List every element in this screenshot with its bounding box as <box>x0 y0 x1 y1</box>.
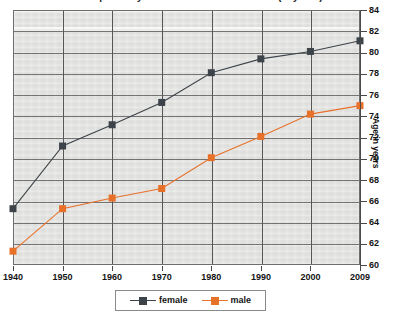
data-point-male-1980[interactable] <box>208 154 215 161</box>
legend-item-female[interactable]: female <box>130 296 188 305</box>
y-tick-64 <box>361 223 367 224</box>
data-point-male-1970[interactable] <box>158 185 165 192</box>
y-tick-78 <box>361 74 367 75</box>
series-line-male <box>13 106 360 252</box>
x-tick-label-1990: 1990 <box>241 272 281 282</box>
y-tick-label-82: 82 <box>369 27 379 36</box>
legend-item-male[interactable]: male <box>202 296 252 305</box>
data-point-female-2000[interactable] <box>307 48 314 55</box>
data-point-male-1960[interactable] <box>109 195 116 202</box>
data-point-female-1970[interactable] <box>158 99 165 106</box>
x-tick-label-2000: 2000 <box>290 272 330 282</box>
y-tick-label-64: 64 <box>369 218 379 227</box>
y-tick-label-84: 84 <box>369 6 379 15</box>
y-tick-label-60: 60 <box>369 261 379 270</box>
data-point-male-2000[interactable] <box>307 111 314 118</box>
y-tick-66 <box>361 201 367 202</box>
x-tick-1980 <box>211 266 212 271</box>
y-tick-68 <box>361 180 367 181</box>
data-point-male-1990[interactable] <box>257 133 264 140</box>
y-tick-74 <box>361 116 367 117</box>
chart-legend: female male <box>115 290 266 311</box>
y-tick-label-76: 76 <box>369 91 379 100</box>
series-group <box>10 37 364 254</box>
data-point-female-1960[interactable] <box>109 121 116 128</box>
y-tick-label-66: 66 <box>369 197 379 206</box>
x-tick-label-1970: 1970 <box>142 272 182 282</box>
y-tick-label-62: 62 <box>369 239 379 248</box>
data-point-female-1980[interactable] <box>208 69 215 76</box>
y-tick-76 <box>361 95 367 96</box>
x-tick-1940 <box>13 266 14 271</box>
y-tick-80 <box>361 53 367 54</box>
x-tick-label-1950: 1950 <box>43 272 83 282</box>
y-tick-62 <box>361 244 367 245</box>
x-tick-label-1960: 1960 <box>92 272 132 282</box>
y-tick-label-78: 78 <box>369 69 379 78</box>
legend-label-male: male <box>231 296 252 305</box>
y-tick-82 <box>361 31 367 32</box>
x-tick-1960 <box>112 266 113 271</box>
chart-screenshot: Life expectancy at birth in the United S… <box>0 0 401 317</box>
x-tick-label-1980: 1980 <box>191 272 231 282</box>
data-point-female-1940[interactable] <box>10 205 17 212</box>
x-tick-label-1940: 1940 <box>0 272 33 282</box>
y-tick-label-80: 80 <box>369 48 379 57</box>
data-point-female-1950[interactable] <box>59 143 66 150</box>
x-tick-1950 <box>63 266 64 271</box>
series-line-female <box>13 41 360 209</box>
data-point-male-1940[interactable] <box>10 248 17 255</box>
y-axis-title: Age in years <box>371 118 381 169</box>
x-tick-2009 <box>360 266 361 271</box>
y-tick-60 <box>361 265 367 266</box>
y-tick-72 <box>361 138 367 139</box>
x-tick-1970 <box>162 266 163 271</box>
legend-swatch-male <box>202 296 228 305</box>
legend-label-female: female <box>159 296 188 305</box>
y-tick-70 <box>361 159 367 160</box>
x-tick-2000 <box>310 266 311 271</box>
y-tick-label-68: 68 <box>369 176 379 185</box>
data-point-male-1950[interactable] <box>59 205 66 212</box>
x-tick-1990 <box>261 266 262 271</box>
data-point-female-1990[interactable] <box>257 55 264 62</box>
chart-title: Life expectancy at birth in the United S… <box>30 0 360 3</box>
series-layer <box>13 10 360 265</box>
y-tick-84 <box>361 10 367 11</box>
x-tick-label-2009: 2009 <box>340 272 380 282</box>
legend-swatch-female <box>130 296 156 305</box>
